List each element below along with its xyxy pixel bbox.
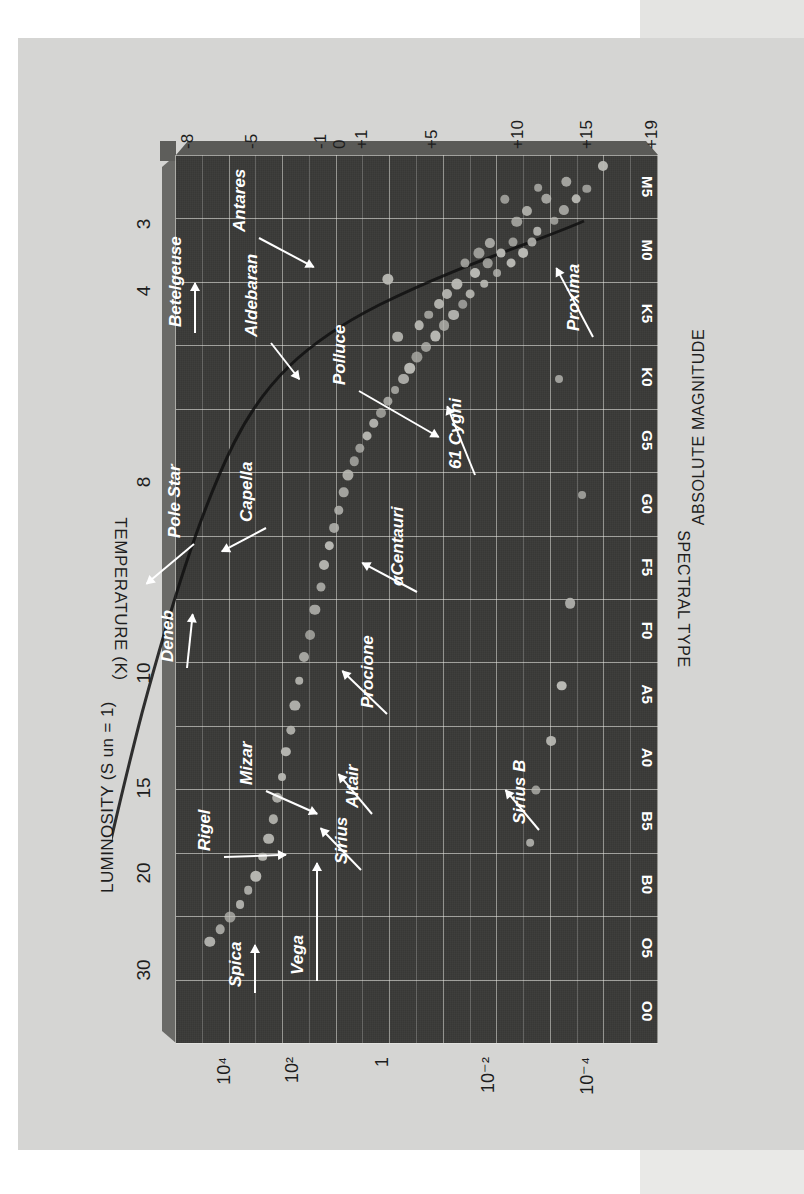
gridline-horizontal: [416, 155, 417, 1043]
gridline-vertical: [176, 662, 658, 663]
star-point: [442, 289, 452, 299]
hr-diagram-figure: SPECTRAL TYPE ABSOLUTE MAGNITUDE TEMPERA…: [82, 97, 722, 1097]
gridline-vertical: [176, 789, 658, 790]
star-point: [316, 582, 325, 591]
luminosity-tick: 10⁻⁴: [576, 1057, 598, 1107]
page-bottom-right-margin: [640, 1150, 804, 1194]
page-bottom-margin: [0, 1150, 640, 1194]
gridline-horizontal: [496, 155, 497, 1043]
star-point: [527, 238, 536, 247]
star-point: [269, 814, 279, 824]
temperature-tick-3: 3: [133, 219, 155, 242]
magnitude-tick-plus5: +5: [422, 120, 442, 149]
temperature-tick-4: 4: [133, 286, 155, 309]
gridline-horizontal: [336, 155, 337, 1043]
star-label-deneb: Deneb: [158, 610, 178, 662]
star-point: [236, 900, 244, 908]
star-point: [493, 269, 501, 277]
star-label-polluce: Polluce: [330, 325, 350, 385]
gridline-vertical: [176, 155, 658, 156]
star-point: [342, 469, 353, 480]
spectral-type-label-f0: F0: [639, 622, 656, 640]
star-point: [319, 560, 329, 570]
star-label-aldebaran: Aldebaran: [242, 254, 262, 337]
magnitude-tick-plus15: +15: [577, 110, 597, 149]
star-point: [461, 259, 470, 268]
spectral-type-label-k5: K5: [639, 304, 656, 324]
star-point: [434, 299, 444, 309]
star-point: [324, 541, 334, 551]
gridline-horizontal: [603, 155, 604, 1043]
spectral-type-label-a0: A0: [639, 748, 656, 768]
star-label-procione: Procione: [358, 636, 378, 709]
page-background: SPECTRAL TYPE ABSOLUTE MAGNITUDE TEMPERA…: [0, 0, 804, 1194]
star-point: [281, 747, 291, 757]
temperature-tick-20: 20: [133, 862, 155, 895]
star-label-vega: Vega: [288, 935, 308, 975]
star-point: [533, 227, 542, 236]
star-label-mizar: Mizar: [237, 741, 257, 784]
star-label-capella: Capella: [237, 461, 257, 521]
star-point: [369, 419, 378, 428]
star-point: [509, 238, 518, 247]
star-point: [559, 205, 569, 215]
luminosity-tick: 10²: [281, 1057, 302, 1095]
star-label-rigel: Rigel: [195, 809, 215, 851]
star-point: [500, 195, 509, 204]
spectral-type-label-b0: B0: [639, 875, 656, 895]
gridline-vertical: [176, 1043, 658, 1044]
gridline-vertical: [176, 853, 658, 854]
plot-area: ProximaSirius B61 CygniαCentauriProcione…: [176, 155, 658, 1043]
star-point: [550, 216, 559, 225]
spectral-type-label-k0: K0: [639, 367, 656, 387]
magnitude-tick-plus10: +10: [508, 110, 528, 149]
temperature-tick-30: 30: [133, 960, 155, 993]
leader-arrow-icon: [316, 863, 318, 981]
gridline-horizontal: [550, 155, 551, 1043]
gridline-horizontal: [630, 155, 631, 1043]
star-point: [412, 352, 423, 363]
star-label--centauri: αCentauri: [388, 506, 408, 586]
spectral-type-axis-title: SPECTRAL TYPE: [674, 530, 692, 668]
spectral-type-label-o0: O0: [639, 1001, 656, 1021]
spectral-type-label-f5: F5: [639, 558, 656, 576]
gridline-horizontal: [309, 155, 310, 1043]
star-point: [376, 408, 386, 418]
star-point: [497, 248, 506, 257]
spectral-type-label-m5: M5: [639, 176, 656, 197]
star-point: [251, 871, 262, 882]
plot-corner-slab: [160, 141, 176, 161]
temperature-tick-10: 10: [133, 662, 155, 695]
star-point: [582, 184, 591, 193]
star-point: [299, 652, 309, 662]
gridline-vertical: [176, 916, 658, 917]
gridline-horizontal: [523, 155, 524, 1043]
star-point: [309, 604, 320, 615]
star-label-betelgeuse: Betelgeuse: [166, 236, 186, 327]
star-label-altair: Altair: [343, 764, 363, 807]
star-point: [278, 773, 286, 781]
star-point: [522, 206, 532, 216]
star-point: [224, 911, 235, 922]
spectral-type-label-o5: O5: [639, 938, 656, 958]
magnitude-tick-minus8: -8: [178, 124, 198, 149]
star-point: [485, 238, 495, 248]
temperature-tick-8: 8: [133, 477, 155, 500]
magnitude-tick-minus1: -1: [311, 124, 331, 149]
star-label-pole-star: Pole Star: [165, 464, 185, 538]
star-point: [204, 936, 215, 947]
star-point: [286, 726, 295, 735]
gridline-vertical: [176, 980, 658, 981]
temperature-tick-15: 15: [133, 778, 155, 811]
gridline-horizontal: [657, 155, 658, 1043]
absolute-magnitude-axis-title: ABSOLUTE MAGNITUDE: [690, 329, 708, 526]
star-point: [305, 629, 315, 639]
magnitude-tick-plus19: +19: [642, 110, 662, 149]
star-point: [350, 457, 360, 467]
gridline-vertical: [176, 726, 658, 727]
spectral-type-label-a5: A5: [639, 684, 656, 704]
gridline-horizontal: [282, 155, 283, 1043]
star-point: [506, 259, 515, 268]
star-label-61-cygni: 61 Cygni: [446, 398, 466, 469]
star-point: [459, 300, 468, 309]
